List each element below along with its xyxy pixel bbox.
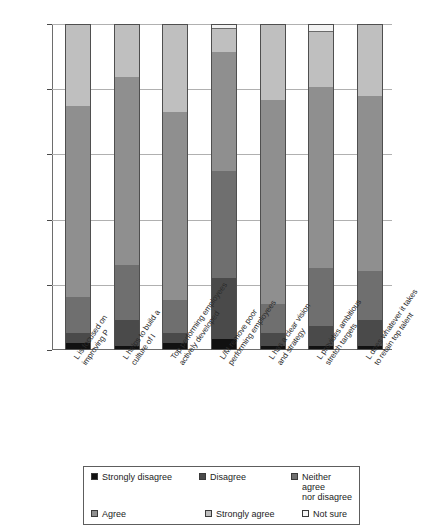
bar-segment bbox=[358, 320, 382, 346]
bar-column bbox=[357, 24, 383, 350]
bar-segment bbox=[261, 333, 285, 346]
bar-column bbox=[211, 24, 237, 350]
bar-segment bbox=[163, 333, 187, 343]
legend-label: Agree bbox=[102, 509, 126, 519]
bar-segment bbox=[309, 25, 333, 32]
legend-item-disagree: Disagree bbox=[199, 472, 291, 482]
bar-segment bbox=[212, 278, 236, 339]
legend-row: Strongly disagree Disagree Neither agree… bbox=[91, 472, 353, 502]
bar-segment bbox=[115, 320, 139, 346]
bar-segment bbox=[163, 300, 187, 332]
legend-label: Neither agree nor disagree bbox=[302, 472, 353, 502]
y-axis-tick-mark bbox=[47, 350, 52, 351]
bar-segment bbox=[163, 343, 187, 349]
y-axis-tick-mark bbox=[47, 285, 52, 286]
bar-segment bbox=[261, 346, 285, 349]
legend-swatch-icon bbox=[302, 510, 309, 517]
legend-label: Strongly disagree bbox=[102, 472, 172, 482]
bar-segment bbox=[358, 25, 382, 96]
bar-column bbox=[162, 24, 188, 350]
plot-area bbox=[52, 24, 392, 350]
bar-segment bbox=[358, 346, 382, 349]
legend-item-neither-agree-nor-disagree: Neither agree nor disagree bbox=[291, 472, 353, 502]
bar-segment bbox=[261, 100, 285, 304]
bar-segment bbox=[212, 29, 236, 52]
legend-label: Not sure bbox=[313, 509, 347, 519]
legend-swatch-icon bbox=[291, 473, 298, 480]
bar-column bbox=[65, 24, 91, 350]
bar-column bbox=[260, 24, 286, 350]
bar-segment bbox=[212, 339, 236, 349]
y-axis-tick-mark bbox=[47, 24, 52, 25]
legend-swatch-icon bbox=[91, 473, 98, 480]
legend-item-agree: Agree bbox=[91, 509, 205, 519]
bar-segment bbox=[261, 25, 285, 100]
bar-segment bbox=[163, 25, 187, 112]
bar-segment bbox=[212, 171, 236, 278]
legend-item-not-sure: Not sure bbox=[302, 509, 347, 519]
bar-segment bbox=[115, 265, 139, 320]
bar-segment bbox=[66, 25, 90, 106]
bar-segment bbox=[66, 297, 90, 333]
legend-item-strongly-agree: Strongly agree bbox=[205, 509, 302, 519]
bar-segment bbox=[358, 271, 382, 320]
bar-segment bbox=[66, 106, 90, 297]
bar-column bbox=[308, 24, 334, 350]
y-axis-tick-mark bbox=[47, 220, 52, 221]
y-axis-tick-mark bbox=[47, 154, 52, 155]
bar-segment bbox=[66, 343, 90, 349]
bar-segment bbox=[309, 268, 333, 326]
legend-label: Disagree bbox=[210, 472, 246, 482]
bar-segment bbox=[115, 77, 139, 265]
bar-segment bbox=[309, 32, 333, 87]
legend-row: Agree Strongly agree Not sure bbox=[91, 509, 353, 519]
bar-segment bbox=[309, 346, 333, 349]
bar-column bbox=[114, 24, 140, 350]
legend-swatch-icon bbox=[205, 510, 212, 517]
legend-label: Strongly agree bbox=[216, 509, 275, 519]
legend-item-strongly-disagree: Strongly disagree bbox=[91, 472, 199, 482]
chart-legend: Strongly disagree Disagree Neither agree… bbox=[83, 466, 360, 525]
bar-segment bbox=[358, 96, 382, 271]
legend-swatch-icon bbox=[91, 510, 98, 517]
bar-segment bbox=[115, 346, 139, 349]
y-axis-tick-mark bbox=[47, 89, 52, 90]
bar-segment bbox=[309, 326, 333, 345]
legend-swatch-icon bbox=[199, 473, 206, 480]
bar-segment bbox=[163, 112, 187, 300]
bar-segment bbox=[309, 87, 333, 268]
bar-segment bbox=[66, 333, 90, 343]
bar-segment bbox=[261, 304, 285, 333]
bar-segment bbox=[115, 25, 139, 77]
bar-segment bbox=[212, 52, 236, 172]
